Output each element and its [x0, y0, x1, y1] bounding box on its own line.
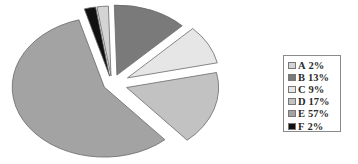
legend-item-c: C 9%	[288, 83, 340, 95]
legend-swatch-c	[288, 86, 296, 93]
legend-key: C	[298, 84, 306, 95]
legend-item-d: D 17%	[288, 96, 340, 108]
legend-value: 17%	[309, 96, 330, 107]
legend-item-b: B 13%	[288, 71, 340, 83]
legend-swatch-f	[288, 123, 296, 130]
legend-item-e: E 57%	[288, 108, 340, 120]
legend-key: B	[298, 72, 305, 83]
legend-key: F	[298, 121, 304, 132]
legend-swatch-a	[288, 62, 296, 69]
legend-value: 57%	[308, 108, 329, 119]
legend: A 2% B 13% C 9% D 17% E 57% F 2%	[283, 55, 341, 132]
pie-chart	[0, 0, 260, 164]
legend-item-f: F 2%	[288, 120, 340, 132]
legend-swatch-e	[288, 110, 296, 117]
legend-value: 2%	[309, 60, 325, 71]
legend-value: 2%	[307, 121, 323, 132]
legend-key: A	[298, 60, 306, 71]
legend-swatch-b	[288, 74, 296, 81]
legend-item-a: A 2%	[288, 59, 340, 71]
legend-key: D	[298, 96, 306, 107]
legend-key: E	[298, 108, 305, 119]
legend-value: 13%	[308, 72, 329, 83]
legend-swatch-d	[288, 98, 296, 105]
legend-value: 9%	[309, 84, 325, 95]
